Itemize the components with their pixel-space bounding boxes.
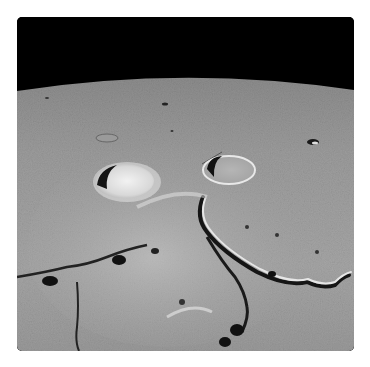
lunar-surface-illustration bbox=[17, 17, 354, 351]
lunar-photo bbox=[17, 17, 354, 351]
